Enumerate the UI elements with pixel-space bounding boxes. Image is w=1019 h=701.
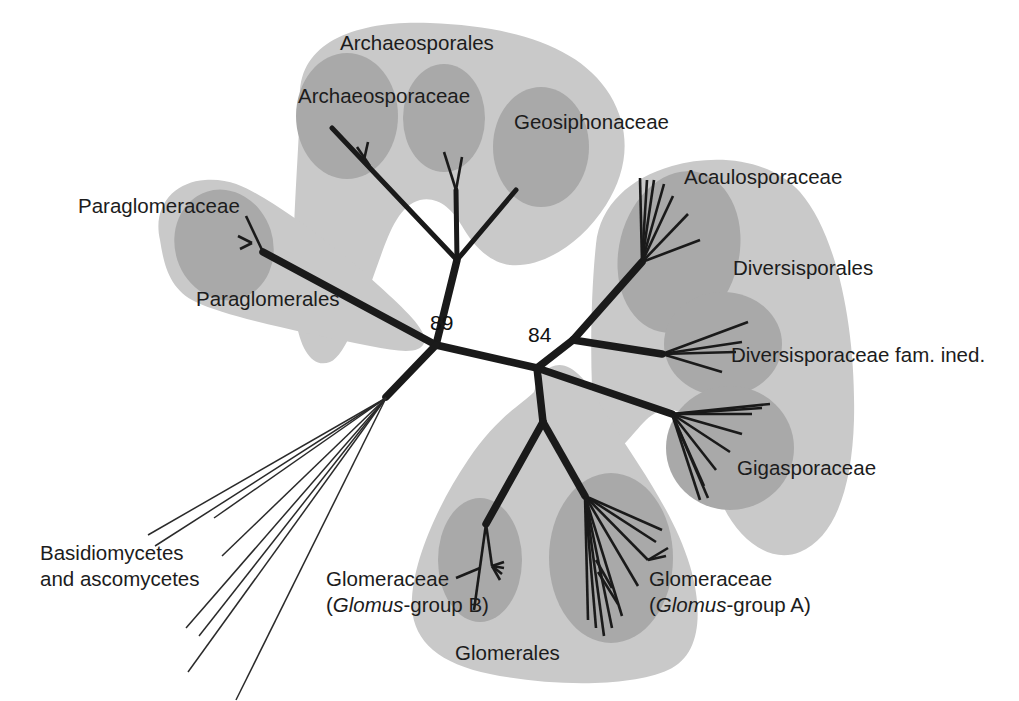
- bootstrap-value-89: 89: [430, 311, 453, 334]
- label-acaulosporaceae: Acaulosporaceae: [684, 165, 842, 188]
- label-archaeosporales: Archaeosporales: [340, 31, 494, 54]
- outgroup-branch-7: [188, 398, 386, 672]
- label-archaeosporaceae: Archaeosporaceae: [298, 84, 470, 107]
- blob-geosiphonaceae: [493, 87, 589, 207]
- label-outgroup-line2: and ascomycetes: [40, 567, 200, 590]
- glomeraceae-a-group: -group A): [726, 593, 810, 616]
- outgroup-branch-1: [148, 398, 386, 535]
- label-paraglomeraceae: Paraglomeraceae: [78, 194, 240, 217]
- label-gigasporaceae: Gigasporaceae: [737, 456, 876, 479]
- label-diversisporales: Diversisporales: [733, 256, 873, 279]
- branch-central-spine: [436, 345, 537, 368]
- blob-archaeosporaceae: [296, 53, 398, 179]
- branch-archaeosporales-mid: [456, 190, 457, 260]
- label-glomeraceae-group-a-line2: (Glomus-group A): [649, 593, 811, 616]
- label-paraglomerales: Paraglomerales: [196, 287, 340, 310]
- branch-outgroup-stem: [386, 345, 436, 397]
- label-glomeraceae-group-a-line1: Glomeraceae: [649, 567, 772, 590]
- outgroup-fan: [148, 398, 386, 700]
- outgroup-branch-8: [236, 398, 386, 700]
- label-glomeraceae-group-b-line2: (Glomus-group B): [326, 593, 489, 616]
- outgroup-branch-2: [155, 398, 386, 546]
- phylogenetic-tree-figure: Archaeosporales Archaeosporaceae Geosiph…: [0, 0, 1019, 701]
- tree-canvas: Archaeosporales Archaeosporaceae Geosiph…: [0, 0, 1019, 701]
- glomeraceae-a-genus: Glomus: [656, 593, 727, 616]
- glomeraceae-b-genus: Glomus: [333, 593, 404, 616]
- outgroup-branch-3: [214, 398, 386, 518]
- label-glomeraceae-group-b-line1: Glomeraceae: [326, 567, 449, 590]
- glomeraceae-b-group: -group B): [403, 593, 488, 616]
- outgroup-branch-4: [222, 398, 386, 556]
- bootstrap-value-84: 84: [528, 323, 552, 346]
- label-diversisporaceae-fam-ined: Diversisporaceae fam. ined.: [731, 343, 985, 366]
- label-geosiphonaceae: Geosiphonaceae: [514, 110, 669, 133]
- label-glomerales: Glomerales: [455, 641, 560, 664]
- label-outgroup-line1: Basidiomycetes: [40, 541, 184, 564]
